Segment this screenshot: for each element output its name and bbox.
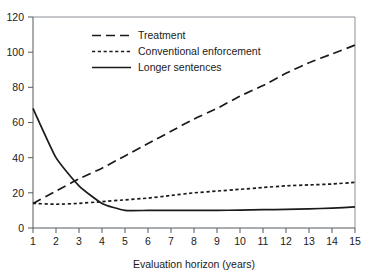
y-axis-labels: 0 20 40 60 80 100 120: [6, 11, 24, 234]
y-tick-label-40: 40: [12, 152, 24, 164]
y-tick-label-120: 120: [6, 11, 24, 23]
x-tick-label-6: 6: [145, 235, 151, 247]
x-tick-label-2: 2: [53, 235, 59, 247]
series-line-longer: [33, 108, 355, 210]
x-tick-label-12: 12: [280, 235, 292, 247]
x-axis-labels: 1 2 3 4 5 6 7 8 9 10 11 12 13 14 15: [30, 235, 361, 247]
legend-label-treatment: Treatment: [138, 29, 186, 41]
x-tick-label-9: 9: [214, 235, 220, 247]
x-tick-label-14: 14: [326, 235, 338, 247]
x-tick-label-3: 3: [76, 235, 82, 247]
x-tick-label-13: 13: [303, 235, 315, 247]
legend-label-conventional: Conventional enforcement: [138, 45, 261, 57]
x-tick-label-11: 11: [258, 235, 269, 247]
line-chart: 0 20 40 60 80 100 120: [0, 0, 372, 278]
y-axis-ticks: [28, 17, 33, 228]
x-tick-label-4: 4: [99, 235, 105, 247]
x-axis-ticks: [33, 228, 355, 233]
x-tick-label-10: 10: [234, 235, 246, 247]
x-axis-title: Evaluation horizon (years): [133, 258, 255, 270]
x-tick-label-8: 8: [191, 235, 197, 247]
x-tick-label-1: 1: [30, 235, 36, 247]
x-tick-label-5: 5: [122, 235, 128, 247]
y-tick-label-80: 80: [12, 81, 24, 93]
x-tick-label-7: 7: [168, 235, 174, 247]
legend: Treatment Conventional enforcement Longe…: [92, 29, 261, 73]
y-tick-label-0: 0: [18, 222, 24, 234]
y-tick-label-60: 60: [12, 116, 24, 128]
series-line-conventional: [33, 182, 355, 204]
chart-container: 0 20 40 60 80 100 120: [0, 0, 372, 278]
x-tick-label-15: 15: [349, 235, 361, 247]
legend-label-longer: Longer sentences: [138, 61, 221, 73]
y-tick-label-100: 100: [6, 46, 24, 58]
y-tick-label-20: 20: [12, 187, 24, 199]
